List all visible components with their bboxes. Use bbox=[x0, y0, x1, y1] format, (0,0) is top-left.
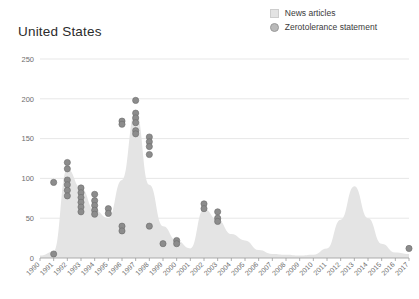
scatter-point bbox=[133, 120, 139, 126]
plot-area: 050100150200250 199019911992199319941995… bbox=[0, 0, 419, 299]
x-tick-label: 2014 bbox=[353, 261, 369, 277]
x-tick-label: 2003 bbox=[202, 261, 218, 277]
x-tick-label: 2004 bbox=[216, 261, 232, 277]
x-tick-label: 2000 bbox=[161, 261, 177, 277]
x-tick-label: 1996 bbox=[107, 261, 123, 277]
scatter-point bbox=[201, 206, 207, 212]
scatter-point bbox=[92, 211, 98, 217]
x-tick-label: 2009 bbox=[284, 261, 300, 277]
area-path bbox=[40, 111, 409, 258]
x-axis-tick-labels: 1990199119921993199419951996199719981999… bbox=[25, 261, 410, 277]
x-tick-label: 2016 bbox=[380, 261, 396, 277]
x-tick-label: 1991 bbox=[38, 261, 54, 277]
axes bbox=[40, 258, 409, 261]
area-series-news-articles bbox=[40, 111, 409, 258]
scatter-point bbox=[215, 209, 221, 215]
y-tick-label: 250 bbox=[21, 55, 34, 64]
scatter-point bbox=[146, 151, 152, 157]
scatter-point bbox=[64, 159, 70, 165]
chart-container: United States News articles Zerotoleranc… bbox=[0, 0, 419, 299]
x-tick-label: 2015 bbox=[366, 261, 382, 277]
y-tick-label: 150 bbox=[21, 134, 34, 143]
scatter-point bbox=[92, 191, 98, 197]
x-tick-label: 2013 bbox=[339, 261, 355, 277]
scatter-point bbox=[160, 241, 166, 247]
x-tick-label: 2007 bbox=[257, 261, 273, 277]
x-tick-label: 2006 bbox=[243, 261, 259, 277]
x-tick-label: 2008 bbox=[271, 261, 287, 277]
y-axis-tick-labels: 050100150200250 bbox=[21, 55, 34, 263]
x-tick-label: 1993 bbox=[66, 261, 82, 277]
scatter-point bbox=[406, 245, 412, 251]
scatter-point bbox=[119, 121, 125, 127]
scatter-point bbox=[51, 179, 57, 185]
x-tick-label: 1998 bbox=[134, 261, 150, 277]
y-tick-label: 50 bbox=[26, 214, 34, 223]
scatter-point bbox=[64, 193, 70, 199]
scatter-point bbox=[64, 187, 70, 193]
x-tick-label: 2012 bbox=[325, 261, 341, 277]
x-tick-label: 2011 bbox=[312, 261, 328, 277]
y-tick-label: 100 bbox=[21, 174, 34, 183]
x-tick-label: 1992 bbox=[52, 261, 68, 277]
x-tick-label: 1997 bbox=[120, 261, 136, 277]
scatter-point bbox=[64, 182, 70, 188]
x-tick-label: 1990 bbox=[25, 261, 41, 277]
scatter-point bbox=[146, 223, 152, 229]
scatter-point bbox=[146, 143, 152, 149]
y-tick-label: 200 bbox=[21, 95, 34, 104]
x-tick-label: 1995 bbox=[93, 261, 109, 277]
x-tick-label: 2005 bbox=[230, 261, 246, 277]
scatter-point bbox=[51, 251, 57, 257]
scatter-point bbox=[64, 166, 70, 172]
scatter-point bbox=[215, 218, 221, 224]
scatter-point bbox=[78, 209, 84, 215]
x-tick-label: 1999 bbox=[148, 261, 164, 277]
y-tick-label: 0 bbox=[30, 254, 34, 263]
scatter-point bbox=[133, 97, 139, 103]
scatter-point bbox=[133, 131, 139, 137]
scatter-point bbox=[105, 210, 111, 216]
scatter-point bbox=[119, 228, 125, 234]
scatter-point bbox=[174, 241, 180, 247]
x-tick-label: 2002 bbox=[189, 261, 205, 277]
x-tick-label: 2001 bbox=[175, 261, 191, 277]
x-tick-label: 2010 bbox=[298, 261, 314, 277]
x-tick-label: 1994 bbox=[79, 261, 95, 277]
x-tick-label: 2017 bbox=[394, 261, 410, 277]
